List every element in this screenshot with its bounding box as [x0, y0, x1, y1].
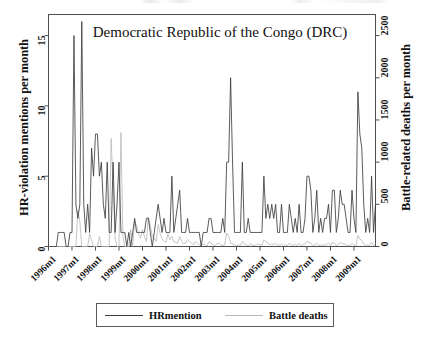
- y-tick-label-right: 2500: [378, 0, 389, 35]
- legend-label-battle-deaths: Battle deaths: [269, 310, 328, 321]
- chart-legend: HRmention Battle deaths: [96, 303, 334, 327]
- y-tick-label-left: 15: [35, 35, 46, 75]
- y-tick-label-right: 500: [378, 160, 389, 204]
- y-tick-label-right: 0: [378, 202, 389, 246]
- plot-frame: [49, 15, 376, 247]
- series-line-hrmention: [49, 22, 376, 247]
- series-line-battle-deaths: [49, 133, 376, 247]
- legend-entry-hrmention: HRmention: [105, 304, 202, 326]
- y-tick-label-right: 1500: [378, 75, 389, 119]
- legend-entry-battle-deaths: Battle deaths: [225, 304, 328, 326]
- legend-label-hrmention: HRmention: [149, 310, 202, 321]
- chart-title: Democratic Republic of the Congo (DRC): [75, 24, 365, 41]
- legend-swatch-hrmention: [105, 315, 143, 316]
- y-tick-label-left: 10: [35, 105, 46, 145]
- y-tick-label-right: 1000: [378, 118, 389, 162]
- cropped-header-artifact: [140, 0, 390, 3]
- chart-figure: HR-violation mentions per month Battle-r…: [0, 0, 430, 340]
- y-tick-label-left: 5: [35, 176, 46, 216]
- y-axis-right-title: Battle-related deaths per month: [399, 18, 414, 238]
- y-axis-left-title: HR-violation mentions per month: [17, 18, 32, 238]
- y-tick-label-right: 2000: [378, 33, 389, 77]
- legend-swatch-battle-deaths: [225, 315, 263, 316]
